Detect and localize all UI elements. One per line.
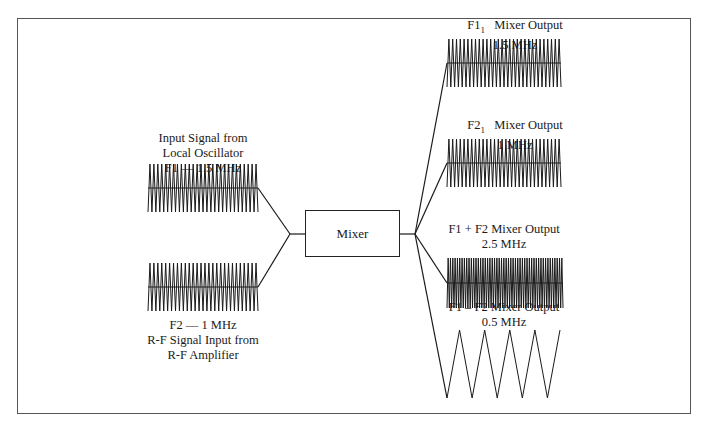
input-f1-label: Input Signal from Local Oscillator F1 — …: [143, 131, 263, 176]
connector-f2-in: [258, 234, 290, 287]
output-f2-label: F21 Mixer Output 1 MHz: [440, 118, 590, 153]
mixer-block: Mixer: [305, 210, 400, 257]
input-f2-label: F2 — 1 MHz R-F Signal Input from R-F Amp…: [133, 318, 273, 363]
connector-f1-in: [258, 188, 290, 234]
output-sum-label: F1 + F2 Mixer Output 2.5 MHz: [434, 222, 574, 252]
output-f1-label: F11 Mixer Output 1.5 MHz: [440, 18, 590, 53]
output-diff-waveform: [447, 330, 560, 398]
output-diff-label: F1 – F2 Mixer Output 0.5 MHz: [434, 300, 574, 330]
mixer-label: Mixer: [337, 226, 369, 242]
